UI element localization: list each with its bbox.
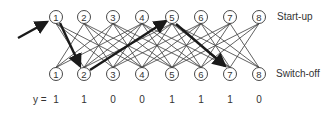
y-value: 1 (81, 94, 87, 105)
start-up-node-8: 8 (253, 11, 266, 24)
svg-text:5: 5 (169, 12, 174, 23)
svg-text:3: 3 (110, 12, 115, 23)
switch-off-node-6: 6 (195, 68, 208, 81)
y-value: 1 (53, 94, 59, 105)
entry-arrow (18, 22, 47, 38)
start-up-nodes: 12345678 (50, 11, 266, 24)
svg-text:8: 8 (256, 69, 261, 80)
path-arrow-2 (90, 21, 166, 70)
y-label: y = (33, 94, 47, 105)
switch-off-node-7: 7 (224, 68, 237, 81)
start-up-label: Start-up (277, 11, 313, 22)
switch-off-node-4: 4 (136, 68, 149, 81)
y-value: 0 (256, 94, 262, 105)
svg-text:2: 2 (81, 12, 86, 23)
switch-off-nodes: 12345678 (50, 68, 266, 81)
start-up-node-6: 6 (195, 11, 208, 24)
switch-off-node-1: 1 (50, 68, 63, 81)
svg-text:8: 8 (256, 12, 261, 23)
switch-off-node-3: 3 (107, 68, 120, 81)
switch-off-node-2: 2 (78, 68, 91, 81)
connection-lines (56, 24, 259, 68)
svg-text:1: 1 (53, 12, 58, 23)
svg-text:4: 4 (139, 69, 144, 80)
y-value: 1 (169, 94, 175, 105)
svg-text:2: 2 (81, 69, 86, 80)
y-value: 0 (110, 94, 116, 105)
switch-off-node-5: 5 (166, 68, 179, 81)
y-value: 1 (227, 94, 233, 105)
svg-text:5: 5 (169, 69, 174, 80)
svg-text:1: 1 (53, 69, 58, 80)
switch-off-label: Switch-off (276, 68, 320, 79)
y-value: 0 (139, 94, 145, 105)
path-arrow-1 (60, 23, 80, 66)
svg-text:6: 6 (198, 12, 203, 23)
y-value: 1 (198, 94, 204, 105)
start-up-node-5: 5 (166, 11, 179, 24)
start-up-node-7: 7 (224, 11, 237, 24)
svg-text:7: 7 (227, 69, 232, 80)
svg-text:6: 6 (198, 69, 203, 80)
start-up-node-4: 4 (136, 11, 149, 24)
start-up-node-1: 1 (50, 11, 63, 24)
start-up-node-2: 2 (78, 11, 91, 24)
start-up-node-3: 3 (107, 11, 120, 24)
svg-text:4: 4 (139, 12, 144, 23)
path-arrow-3 (176, 24, 225, 66)
svg-text:7: 7 (227, 12, 232, 23)
switch-off-node-8: 8 (253, 68, 266, 81)
svg-text:3: 3 (110, 69, 115, 80)
